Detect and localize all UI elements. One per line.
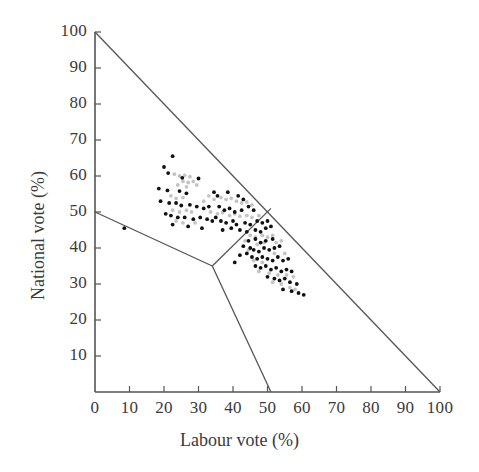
data-point	[302, 293, 306, 297]
data-point	[281, 288, 285, 292]
data-point	[279, 270, 283, 274]
data-point	[257, 214, 261, 218]
data-point	[288, 280, 292, 284]
data-point	[216, 212, 220, 216]
data-point	[238, 253, 242, 257]
data-point	[219, 219, 223, 223]
data-point	[188, 203, 192, 207]
data-point	[260, 261, 264, 265]
data-point	[185, 191, 189, 195]
data-point	[285, 273, 289, 277]
data-point	[190, 210, 194, 214]
data-point	[273, 277, 277, 281]
y-tick-label: 90	[45, 57, 87, 77]
y-tick-label: 40	[45, 237, 87, 257]
data-point	[260, 255, 264, 259]
partition-lower	[212, 266, 271, 392]
data-point	[290, 289, 294, 293]
data-point	[276, 273, 280, 277]
data-point	[212, 198, 216, 202]
y-tick-label: 50	[45, 201, 87, 221]
data-point	[241, 198, 245, 202]
data-point	[233, 261, 237, 265]
data-point	[248, 223, 252, 227]
data-point	[293, 288, 297, 292]
data-point	[264, 226, 268, 230]
data-point	[247, 205, 251, 209]
data-point	[200, 226, 204, 230]
data-point	[254, 237, 258, 241]
data-point	[171, 208, 175, 212]
data-point	[240, 208, 244, 212]
data-point	[185, 208, 189, 212]
data-point	[252, 208, 256, 212]
data-point	[245, 200, 249, 204]
data-point	[183, 216, 187, 220]
y-tick-label: 100	[45, 21, 87, 41]
data-point	[224, 198, 228, 202]
data-point	[254, 228, 258, 232]
data-point	[222, 208, 226, 212]
data-point	[169, 214, 173, 218]
data-point	[219, 196, 223, 200]
data-point	[257, 250, 261, 254]
scatter-chart: 0102030405060708090100 10203040506070809…	[0, 0, 479, 472]
data-point	[171, 154, 175, 158]
data-point	[181, 221, 185, 225]
data-point	[281, 259, 285, 263]
data-point	[214, 216, 218, 220]
data-point	[279, 282, 283, 286]
data-point	[188, 175, 192, 179]
data-point	[267, 271, 271, 275]
data-point	[178, 210, 182, 214]
data-point	[207, 205, 211, 209]
data-point	[259, 266, 263, 270]
x-tick-label: 100	[420, 398, 460, 418]
data-point	[240, 201, 244, 205]
data-point	[174, 201, 178, 205]
data-point	[176, 183, 180, 187]
data-point	[271, 237, 275, 241]
data-point	[250, 203, 254, 207]
data-point	[185, 185, 189, 189]
data-point	[167, 201, 171, 205]
data-point	[283, 277, 287, 281]
data-point	[276, 255, 280, 259]
data-point	[181, 180, 185, 184]
data-point	[248, 246, 252, 250]
data-point	[273, 252, 277, 256]
data-point	[171, 223, 175, 227]
data-point	[229, 226, 233, 230]
data-point	[266, 219, 270, 223]
data-point	[193, 221, 197, 225]
data-point	[250, 255, 254, 259]
data-point	[191, 180, 195, 184]
data-point	[274, 241, 278, 245]
data-point	[266, 235, 270, 239]
data-point	[267, 248, 271, 252]
y-tick-label: 30	[45, 273, 87, 293]
data-point	[195, 205, 199, 209]
data-point	[254, 264, 258, 268]
data-point	[252, 248, 256, 252]
data-point	[212, 190, 216, 194]
data-point	[278, 244, 282, 248]
data-point	[164, 212, 168, 216]
data-point	[264, 264, 268, 268]
data-point	[180, 176, 184, 180]
data-point	[260, 221, 264, 225]
data-point	[191, 217, 195, 221]
data-point	[233, 210, 237, 214]
data-point	[271, 259, 275, 263]
data-point	[176, 216, 180, 220]
data-point	[159, 199, 163, 203]
data-point	[269, 268, 273, 272]
data-point	[245, 230, 249, 234]
data-point	[162, 165, 166, 169]
data-point	[172, 172, 176, 176]
y-tick-label: 80	[45, 93, 87, 113]
data-point	[166, 189, 170, 193]
data-point	[235, 199, 239, 203]
data-point	[226, 190, 230, 194]
data-point	[186, 181, 190, 185]
